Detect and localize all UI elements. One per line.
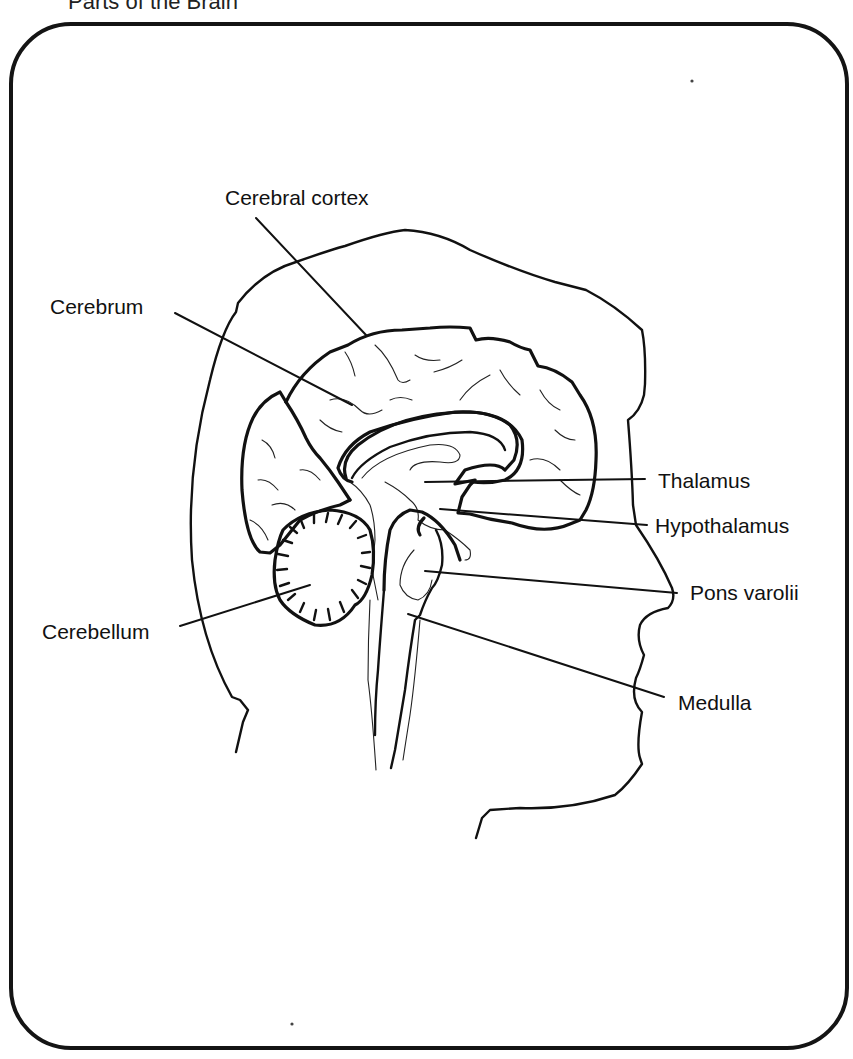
leader-hypothalamus — [440, 509, 647, 525]
head-outline — [191, 230, 674, 838]
label-cerebral-cortex: Cerebral cortex — [225, 186, 369, 210]
label-pons-varolii: Pons varolii — [690, 581, 799, 605]
leader-cerebrum — [175, 313, 352, 405]
label-cerebellum: Cerebellum — [42, 620, 149, 644]
label-medulla: Medulla — [678, 691, 752, 715]
speck — [690, 79, 693, 82]
fornix-inner — [350, 444, 470, 600]
brainstem — [368, 510, 460, 770]
leader-pons-varolii — [425, 571, 677, 593]
label-thalamus: Thalamus — [658, 469, 750, 493]
corpus-callosum — [345, 412, 523, 483]
label-hypothalamus: Hypothalamus — [655, 514, 789, 538]
leader-medulla — [408, 614, 664, 697]
cerebellum-outline — [274, 510, 373, 625]
leader-cerebral-cortex — [256, 218, 366, 335]
label-cerebrum: Cerebrum — [50, 295, 143, 319]
speck — [290, 1022, 293, 1025]
